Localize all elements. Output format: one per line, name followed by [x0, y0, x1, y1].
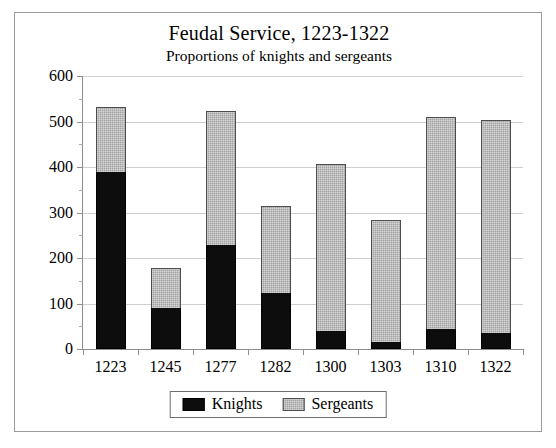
- x-axis-tick-label: 1300: [315, 358, 347, 376]
- legend-item-sergeants: Sergeants: [282, 396, 373, 412]
- legend-swatch-sergeants-icon: [282, 398, 304, 411]
- x-axis-tick-label: 1303: [370, 358, 402, 376]
- chart-title-block: Feudal Service, 1223-1322 Proportions of…: [15, 21, 543, 66]
- bar-group[interactable]: [371, 76, 401, 349]
- bar-group[interactable]: [206, 76, 236, 349]
- legend-label-sergeants: Sergeants: [311, 396, 373, 412]
- x-axis-tick-label: 1245: [150, 358, 182, 376]
- chart-legend: Knights Sergeants: [170, 391, 387, 418]
- x-axis-tick: [468, 349, 469, 355]
- x-axis-tick-label: 1322: [480, 358, 512, 376]
- bar-segment-sergeants[interactable]: [316, 164, 346, 331]
- bar-segment-sergeants[interactable]: [151, 268, 181, 308]
- bar-segment-sergeants[interactable]: [371, 220, 401, 342]
- x-axis-tick: [303, 349, 304, 355]
- y-axis-tick-label: 600: [23, 67, 73, 85]
- x-axis-tick: [138, 349, 139, 355]
- y-axis-tick-label: 0: [23, 340, 73, 358]
- bar-segment-knights[interactable]: [151, 308, 181, 349]
- page-title: Feudal Service, 1223-1322: [15, 21, 543, 45]
- x-axis-tick: [83, 349, 84, 355]
- x-axis-tick: [523, 349, 524, 355]
- x-axis-tick: [248, 349, 249, 355]
- x-axis-tick-label: 1277: [205, 358, 237, 376]
- x-axis-tick-label: 1310: [425, 358, 457, 376]
- plot-area: 0100200300400500600 12231245127712821300…: [82, 76, 523, 350]
- y-axis-tick-label: 300: [23, 204, 73, 222]
- bar-segment-sergeants[interactable]: [426, 117, 456, 329]
- bar-segment-sergeants[interactable]: [481, 120, 511, 333]
- y-axis-tick-label: 100: [23, 295, 73, 313]
- chart-subtitle: Proportions of knights and sergeants: [15, 46, 543, 66]
- bar-segment-sergeants[interactable]: [96, 107, 126, 173]
- bar-segment-knights[interactable]: [261, 293, 291, 349]
- bar-group[interactable]: [316, 76, 346, 349]
- bar-group[interactable]: [481, 76, 511, 349]
- bar-group[interactable]: [151, 76, 181, 349]
- bar-series-layer: [83, 76, 523, 349]
- y-axis-tick-label: 200: [23, 249, 73, 267]
- bar-segment-sergeants[interactable]: [206, 111, 236, 245]
- legend-item-knights: Knights: [183, 396, 263, 412]
- bar-segment-knights[interactable]: [316, 331, 346, 349]
- chart-frame: Feudal Service, 1223-1322 Proportions of…: [14, 12, 542, 432]
- x-axis-tick-label: 1282: [260, 358, 292, 376]
- x-axis-tick-label: 1223: [95, 358, 127, 376]
- x-axis-tick: [413, 349, 414, 355]
- x-axis-tick: [358, 349, 359, 355]
- bar-segment-knights[interactable]: [371, 342, 401, 349]
- x-axis-tick: [193, 349, 194, 355]
- bar-segment-knights[interactable]: [426, 329, 456, 349]
- legend-swatch-knights-icon: [183, 398, 205, 411]
- bar-group[interactable]: [426, 76, 456, 349]
- legend-label-knights: Knights: [212, 396, 263, 412]
- bar-group[interactable]: [96, 76, 126, 349]
- bar-segment-knights[interactable]: [96, 172, 126, 349]
- y-axis-tick-label: 400: [23, 158, 73, 176]
- bar-group[interactable]: [261, 76, 291, 349]
- y-axis-tick-label: 500: [23, 113, 73, 131]
- bar-segment-sergeants[interactable]: [261, 206, 291, 292]
- bar-segment-knights[interactable]: [481, 333, 511, 349]
- bar-segment-knights[interactable]: [206, 245, 236, 349]
